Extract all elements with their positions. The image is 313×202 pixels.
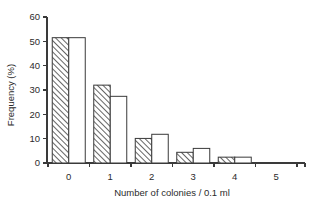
x-tick-label: 0 (66, 171, 71, 182)
y-tick-label: 0 (35, 157, 40, 168)
bar (235, 157, 252, 163)
bar (94, 85, 111, 163)
y-axis: 0102030405060 (29, 11, 47, 168)
x-tick-label: 1 (108, 171, 113, 182)
x-tick-label: 4 (232, 171, 237, 182)
bar (193, 148, 210, 163)
y-tick-label: 30 (29, 84, 40, 95)
x-axis: 012345 (47, 163, 305, 182)
x-tick-label: 5 (274, 171, 279, 182)
y-tick-label: 50 (29, 36, 40, 47)
x-tick-label: 3 (191, 171, 196, 182)
y-tick-label: 10 (29, 133, 40, 144)
bar-chart-svg: 0102030405060 012345 Number of colonies … (0, 0, 313, 202)
bar (218, 157, 235, 163)
bar (177, 152, 194, 163)
chart-figure: 0102030405060 012345 Number of colonies … (0, 0, 313, 202)
bar (135, 138, 152, 163)
x-tick-label: 2 (149, 171, 154, 182)
bars-group (52, 38, 251, 163)
y-tick-label: 60 (29, 11, 40, 22)
bar (69, 38, 86, 163)
bar (52, 38, 69, 163)
y-axis-title: Frequency (%) (5, 64, 16, 126)
bar (110, 96, 127, 163)
x-axis-title: Number of colonies / 0.1 ml (114, 187, 230, 198)
y-tick-label: 40 (29, 60, 40, 71)
y-tick-label: 20 (29, 109, 40, 120)
bar (152, 134, 169, 163)
